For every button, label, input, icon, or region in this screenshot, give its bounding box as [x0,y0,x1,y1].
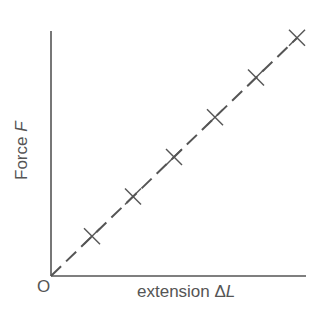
origin-label: O [37,277,50,297]
y-axis-label: Force F [12,121,32,180]
x-axis-label: extension ΔL [137,282,235,302]
chart-canvas [0,0,328,323]
